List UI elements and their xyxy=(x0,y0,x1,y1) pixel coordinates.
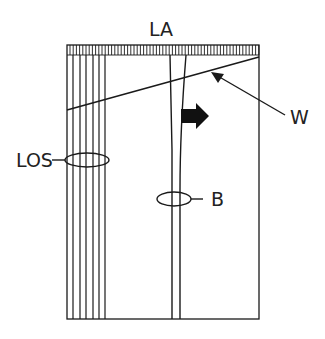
los-ellipse xyxy=(65,153,109,167)
wall-pointer-arrow xyxy=(211,72,285,115)
band-ellipse xyxy=(157,192,191,206)
label-b: B xyxy=(211,190,224,209)
los-lines xyxy=(73,55,105,319)
direction-arrow-icon xyxy=(181,103,209,129)
hatched-top-bar xyxy=(67,45,259,55)
outer-frame xyxy=(67,45,259,319)
band-right-line xyxy=(180,55,186,319)
label-w: W xyxy=(290,108,309,127)
label-los: LOS xyxy=(16,151,53,170)
label-la: LA xyxy=(149,20,173,39)
band-left-line xyxy=(170,55,172,319)
